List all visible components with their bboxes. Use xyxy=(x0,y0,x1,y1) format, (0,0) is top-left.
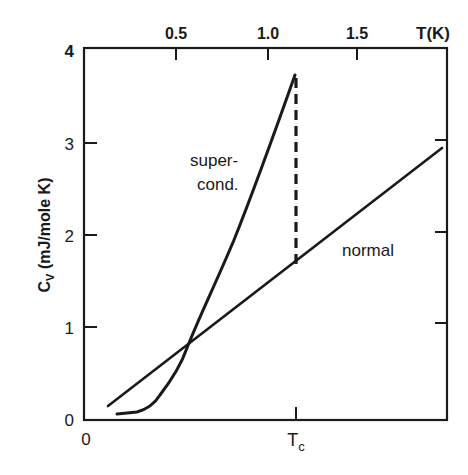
tc-label: Tc xyxy=(287,430,305,454)
plot-frame xyxy=(84,48,447,420)
right-y-ticks xyxy=(435,140,447,323)
tc-label-main: T xyxy=(287,430,298,450)
y-tick-label-1: 1 xyxy=(65,319,74,338)
y-tick-label-3: 3 xyxy=(65,135,74,154)
x-axis-unit-label: T(K) xyxy=(416,24,450,43)
normal-series-line xyxy=(108,148,442,406)
x-tick-label-1.5: 1.5 xyxy=(346,25,368,42)
left-y-ticks xyxy=(84,143,97,327)
specific-heat-chart: 0.5 1.0 1.5 T(K) 4 3 2 1 0 0 Tc CV (mJ/m… xyxy=(0,0,468,475)
annotation-super-line2: cond. xyxy=(197,175,239,194)
annotation-super-line1: super- xyxy=(190,151,238,170)
y-tick-label-0: 0 xyxy=(65,411,74,430)
top-x-ticks xyxy=(176,48,357,60)
y-tick-label-4: 4 xyxy=(65,42,75,61)
x-tick-label-0: 0 xyxy=(81,430,90,449)
x-tick-label-1.0: 1.0 xyxy=(257,25,279,42)
annotation-normal: normal xyxy=(342,241,394,260)
y-axis-title: CV (mJ/mole K) xyxy=(36,178,56,293)
y-axis-title-rest: (mJ/mole K) xyxy=(36,178,53,274)
tc-label-sub: c xyxy=(298,439,305,454)
x-tick-label-0.5: 0.5 xyxy=(165,25,187,42)
y-tick-label-2: 2 xyxy=(65,227,74,246)
superconducting-series-curve xyxy=(117,75,295,414)
y-axis-title-main: C xyxy=(36,280,53,292)
